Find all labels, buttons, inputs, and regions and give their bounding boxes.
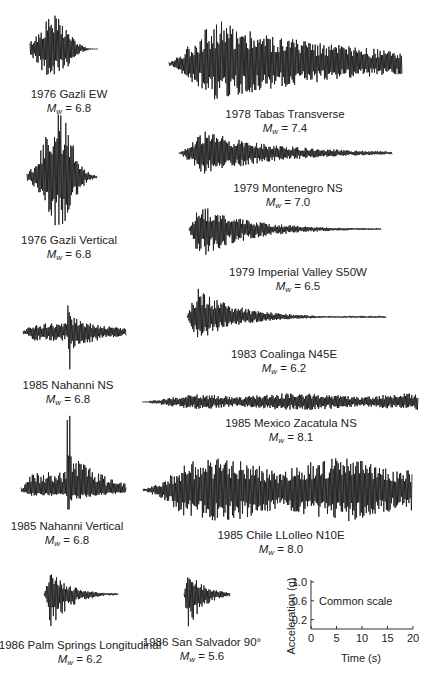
y-axis-label: Acceleration (g) [284,577,298,654]
record-event-label: 1979 Imperial Valley S50W [148,265,436,279]
record-magnitude-label: Mw = 8.0 [131,542,431,560]
record-magnitude-label: Mw = 7.0 [138,195,436,213]
accelerogram-trace [27,115,97,226]
x-tick-label: 15 [381,632,393,644]
x-tick-label: 10 [356,632,368,644]
accelerogram-trace [30,16,98,75]
record-event-label: 1985 Mexico Zacatula NS [141,416,436,430]
common-scale-title: Common scale [319,594,392,608]
record-event-label: 1976 Gazli Vertical [0,233,219,247]
accelerogram-trace [44,575,118,626]
record-event-label: 1983 Coalinga N45E [134,347,434,361]
record-magnitude-label: Mw = 6.8 [0,247,219,265]
record-event-label: 1976 Gazli EW [0,87,219,101]
common-scale-axes: 05101520 0.20.61.0 [292,576,419,644]
record-magnitude-label: Mw = 8.1 [141,430,436,448]
record-magnitude-label: Mw = 5.6 [52,649,352,667]
record-event-label: 1986 San Salvador 90° [52,635,352,649]
record-magnitude-label: Mw = 7.4 [135,121,435,139]
accelerogram-trace [184,578,230,627]
x-axis-label: Time (s) [341,651,381,665]
record-magnitude-label: Mw = 6.5 [148,279,436,297]
accelerogram-trace [21,416,126,510]
record-magnitude-label: Mw = 6.2 [134,361,434,379]
record-event-label: 1978 Tabas Transverse [135,107,435,121]
accelerogram-trace [23,306,126,370]
record-event-label: 1979 Montenegro NS [138,181,436,195]
record-magnitude-label: Mw = 6.8 [0,392,218,410]
x-tick-label: 20 [407,632,419,644]
record-event-label: 1985 Chile LLolleo N10E [131,528,431,542]
record-event-label: 1985 Nahanni NS [0,378,218,392]
accelerogram-trace [143,458,412,521]
